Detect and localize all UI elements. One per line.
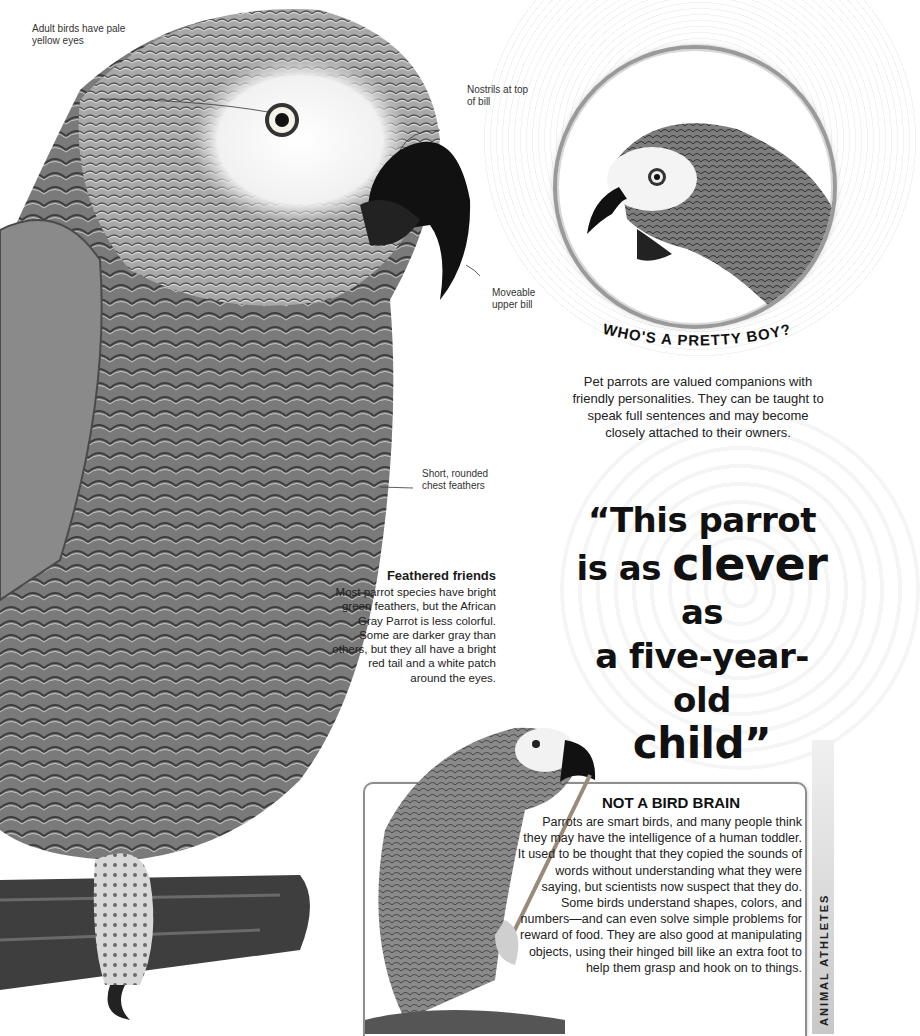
label-bill: Moveable upper bill xyxy=(492,287,552,311)
side-tab-label: ANIMAL ATHLETES xyxy=(818,894,830,1026)
section-side-tab: ANIMAL ATHLETES xyxy=(812,740,834,1034)
label-nostrils: Nostrils at top of bill xyxy=(467,84,537,108)
bird-brain-heading: NOT A BIRD BRAIN xyxy=(602,794,740,811)
feathered-friends-text: Most parrot species have bright green fe… xyxy=(330,585,496,685)
pretty-boy-photo xyxy=(553,45,837,329)
label-chest-feathers: Short, rounded chest feathers xyxy=(422,468,502,492)
pretty-boy-text: Pet parrots are valued companions with f… xyxy=(566,373,830,441)
parrot-head-image xyxy=(557,49,833,325)
quote-line-1: “This parrot xyxy=(570,498,834,542)
quote-line-4: child” xyxy=(570,722,834,766)
bird-brain-text: Parrots are smart birds, and many people… xyxy=(516,814,802,976)
pretty-boy-title: WHO'S A PRETTY BOY? xyxy=(560,318,834,368)
pull-quote: “This parrot is as clever as a five-year… xyxy=(570,498,834,766)
quote-line-2: is as clever as xyxy=(570,542,834,634)
feathered-friends-heading: Feathered friends xyxy=(330,568,496,583)
svg-text:WHO'S A PRETTY BOY?: WHO'S A PRETTY BOY? xyxy=(601,320,793,349)
label-eyes: Adult birds have pale yellow eyes xyxy=(32,23,142,47)
feathered-friends-section: Feathered friends Most parrot species ha… xyxy=(330,568,496,685)
quote-line-3: a five-year-old xyxy=(570,634,834,722)
